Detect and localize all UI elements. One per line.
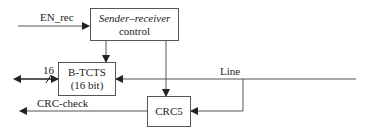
line-branch-wire [191,79,243,111]
crc5-title: CRC5 [155,105,183,118]
btcts-subtitle: (16 bit) [71,79,104,92]
crc5-block: CRC5 [147,96,191,127]
sender-receiver-title: Sender–receiver [99,12,171,25]
line-label: Line [220,65,240,77]
btcts-title: B-TCTS [68,66,106,79]
sender-receiver-subtitle: control [119,25,150,38]
en-rec-label: EN_rec [40,11,74,23]
bus-width-label: 16 [43,64,54,76]
btcts-block: B-TCTS (16 bit) [58,62,116,96]
crc-check-label: CRC-check [37,97,88,109]
sender-receiver-control-block: Sender–receiver control [90,8,179,41]
